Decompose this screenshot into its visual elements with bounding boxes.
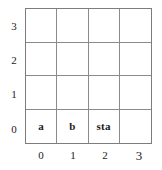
y-axis-tick-0: 0 xyxy=(7,124,21,135)
grid-cell-0-3[interactable] xyxy=(26,9,57,43)
grid-cell-0-0[interactable]: a xyxy=(26,110,57,144)
grid-cell-3-3[interactable] xyxy=(120,9,151,43)
y-axis-tick-1: 1 xyxy=(7,89,21,100)
x-axis-tick-3: 3 xyxy=(131,149,147,162)
grid-cell-0-2[interactable] xyxy=(26,43,57,77)
grid-cell-0-1[interactable] xyxy=(26,76,57,110)
x-axis-tick-2: 2 xyxy=(97,150,113,161)
grid: a b sta xyxy=(25,8,152,144)
x-axis-tick-1: 1 xyxy=(65,150,81,161)
grid-cell-2-1[interactable] xyxy=(89,76,120,110)
grid-cell-1-1[interactable] xyxy=(57,76,88,110)
grid-cell-3-0[interactable] xyxy=(120,110,151,144)
grid-cell-1-3[interactable] xyxy=(57,9,88,43)
x-axis-tick-0: 0 xyxy=(33,150,49,161)
grid-cell-3-1[interactable] xyxy=(120,76,151,110)
grid-cell-2-2[interactable] xyxy=(89,43,120,77)
grid-cell-2-3[interactable] xyxy=(89,9,120,43)
grid-cell-1-2[interactable] xyxy=(57,43,88,77)
y-axis-tick-2: 2 xyxy=(7,55,21,66)
grid-cell-3-2[interactable] xyxy=(120,43,151,77)
grid-cell-1-0[interactable]: b xyxy=(57,110,88,144)
y-axis-tick-3: 3 xyxy=(7,21,21,32)
grid-cell-2-0[interactable]: sta xyxy=(89,110,120,144)
diagram-canvas: 3 2 1 0 a b sta 0 1 2 3 xyxy=(0,0,162,170)
